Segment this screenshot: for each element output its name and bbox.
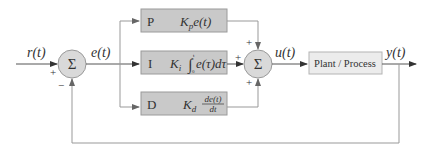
control-label: u(t)	[275, 45, 296, 61]
reference-label: r(t)	[27, 45, 46, 61]
d-denominator: dt	[209, 104, 217, 114]
controller-sum-plus-top: +	[246, 36, 252, 48]
error-sum-minus: −	[58, 79, 64, 91]
d-letter: D	[147, 97, 156, 112]
controller-sum-symbol: Σ	[254, 56, 263, 72]
output-label: y(t)	[384, 45, 406, 61]
error-label: e(t)	[91, 45, 111, 61]
plant-label: Plant / Process	[314, 58, 376, 69]
error-sum-plus: +	[50, 66, 56, 78]
pid-diagram: r(t) Σ + − e(t) P Kpe(t) I Ki ∫ t 0 e(τ)…	[0, 0, 432, 152]
i-expr: e(τ)dτ	[196, 56, 228, 71]
d-output-line	[227, 79, 258, 107]
p-gain: Kpe(t)	[179, 14, 211, 31]
controller-sum-plus-bottom: +	[246, 76, 252, 88]
controller-sum-plus-left: +	[235, 51, 241, 63]
feedback-line	[72, 64, 399, 143]
p-output-line	[227, 21, 258, 49]
d-numerator: de(t)	[205, 94, 222, 104]
error-sum-symbol: Σ	[68, 56, 77, 72]
i-letter: I	[148, 56, 152, 71]
p-letter: P	[147, 14, 154, 29]
